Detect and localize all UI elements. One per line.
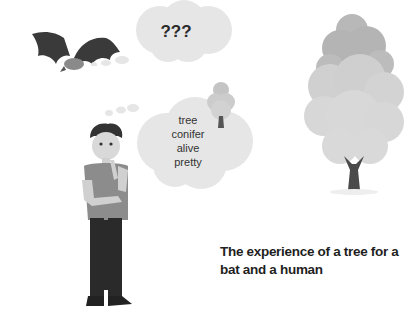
bat-thought-text: ???: [146, 22, 206, 42]
caption-line-2: bat and a human: [220, 261, 416, 279]
human-illustration: [78, 120, 138, 310]
thought-word: pretty: [160, 155, 216, 169]
small-tree-icon: [206, 80, 236, 132]
caption-line-1: The experience of a tree for a: [220, 243, 416, 261]
caption: The experience of a tree for a bat and a…: [220, 243, 416, 279]
big-tree-illustration: [300, 6, 410, 196]
thought-word: alive: [160, 141, 216, 155]
